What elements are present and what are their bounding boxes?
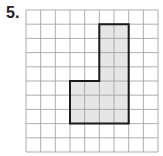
grid-diagram	[0, 0, 163, 156]
